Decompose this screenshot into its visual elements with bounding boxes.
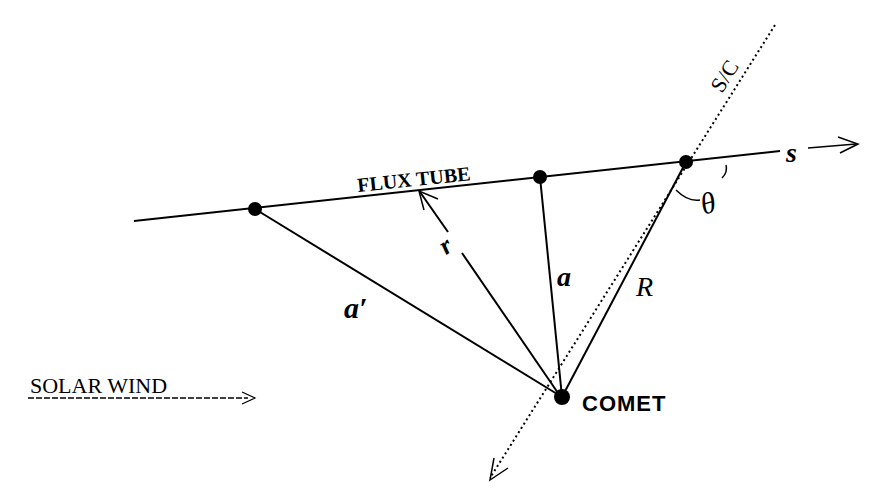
R-line: [562, 162, 686, 397]
closest-point-dot: [533, 170, 547, 184]
solar-wind-label: SOLAR WIND: [30, 373, 167, 398]
spacecraft-point-dot: [679, 155, 693, 169]
theta-arc-upper: [722, 165, 727, 178]
a-label: a: [557, 261, 571, 292]
a-prime-line: [255, 209, 562, 397]
R-label: R: [635, 271, 653, 302]
r-vector-line-lower: [462, 253, 558, 393]
comet-dot: [554, 389, 570, 405]
solar-wind-arrowhead: [242, 392, 255, 404]
r-label: r: [433, 230, 459, 260]
sc-label: S/C: [705, 55, 744, 96]
s-axis-line: [808, 144, 856, 148]
theta-label: θ: [697, 185, 720, 221]
left-point-dot: [248, 202, 262, 216]
a-prime-label: a′: [344, 291, 367, 324]
s-axis-label: s: [785, 137, 797, 168]
flux-tube-geometry-diagram: FLUX TUBE s S/C θ r a a′ R COMET SOLAR W…: [0, 0, 880, 503]
spacecraft-trajectory-arrowhead: [490, 458, 508, 480]
comet-label: COMET: [582, 391, 666, 416]
